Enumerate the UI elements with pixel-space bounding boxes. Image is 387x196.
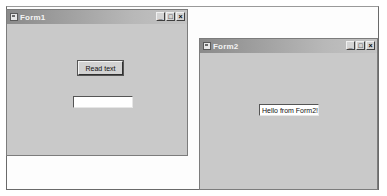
form1-titlebar[interactable]: Form1 _ □ × — [7, 10, 187, 24]
form2-close-icon[interactable]: × — [366, 41, 375, 50]
form2-maximize-icon[interactable]: □ — [356, 41, 365, 50]
form2-app-icon — [203, 42, 211, 50]
read-text-button[interactable]: Read text — [78, 61, 123, 75]
form1-maximize-icon[interactable]: □ — [166, 12, 175, 21]
form2-title: Form2 — [213, 42, 238, 51]
form1-title: Form1 — [20, 13, 45, 22]
form2-window: Form2 _ □ × Hello from Form2! — [199, 38, 378, 190]
form1-minimize-icon[interactable]: _ — [156, 12, 165, 21]
form2-minimize-icon[interactable]: _ — [346, 41, 355, 50]
form1-close-icon[interactable]: × — [176, 12, 185, 21]
form1-window: Form1 _ □ × Read text — [6, 9, 188, 156]
form1-textbox[interactable] — [73, 96, 133, 108]
form2-titlebar[interactable]: Form2 _ □ × — [200, 39, 377, 53]
form1-app-icon — [10, 13, 18, 21]
form2-textbox[interactable]: Hello from Form2! — [259, 104, 319, 116]
